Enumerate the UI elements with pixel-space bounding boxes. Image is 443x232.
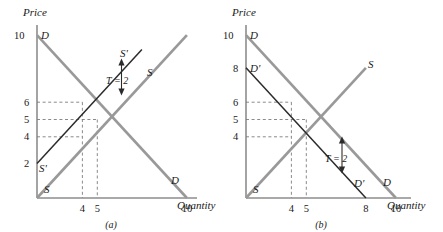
x-tick-5: 5 bbox=[304, 203, 309, 214]
tax-label: T = 2 bbox=[106, 75, 128, 86]
x-tick-10: 10 bbox=[391, 203, 402, 214]
y-tick-4: 4 bbox=[24, 131, 30, 142]
y-tick-5: 5 bbox=[233, 114, 238, 125]
x-tick-4: 4 bbox=[80, 203, 86, 214]
supply-label-right: S bbox=[368, 58, 374, 70]
x-tick-10: 10 bbox=[182, 203, 193, 214]
demand-label-bottom: D bbox=[382, 176, 391, 188]
supply-shifted-curve bbox=[37, 50, 142, 164]
panel-b-chart: Price Quantity T = 2 D D bbox=[221, 0, 443, 232]
demand-label-top: D bbox=[40, 29, 49, 41]
tax-incidence-figure: Price Quantity T = 2 D D bbox=[0, 0, 443, 232]
panel-caption-b: (b) bbox=[315, 219, 327, 231]
y-tick-5: 5 bbox=[24, 114, 29, 125]
y-tick-6: 6 bbox=[233, 97, 238, 108]
x-tick-4: 4 bbox=[289, 203, 295, 214]
y-tick-8: 8 bbox=[233, 63, 238, 74]
x-tick-5: 5 bbox=[95, 203, 100, 214]
tax-label: T = 2 bbox=[325, 153, 347, 164]
panel-b: Price Quantity T = 2 D D bbox=[221, 0, 443, 232]
supply-label-origin: S bbox=[44, 183, 50, 195]
y-axis-title: Price bbox=[231, 6, 256, 18]
y-tick-10: 10 bbox=[14, 30, 25, 41]
panel-caption-a: (a) bbox=[105, 219, 117, 231]
y-tick-6: 6 bbox=[24, 97, 29, 108]
panel-a-chart: Price Quantity T = 2 D D bbox=[0, 0, 222, 232]
y-tick-2: 2 bbox=[24, 158, 29, 169]
x-tick-8: 8 bbox=[363, 203, 368, 214]
supply-label-right: S bbox=[147, 66, 153, 78]
y-tick-4: 4 bbox=[233, 131, 239, 142]
demand-label-top: D bbox=[249, 29, 258, 41]
demand-label-bottom: D bbox=[170, 174, 179, 186]
supply-label-origin: S bbox=[253, 183, 259, 195]
demand-shifted-label-bottom: D' bbox=[353, 177, 365, 189]
supply-shifted-label-high: S' bbox=[120, 47, 129, 59]
supply-shifted-label-low: S' bbox=[39, 162, 48, 174]
y-axis-title: Price bbox=[22, 6, 47, 18]
panel-a: Price Quantity T = 2 D D bbox=[0, 0, 222, 232]
demand-shifted-label-top: D' bbox=[249, 62, 261, 74]
y-tick-10: 10 bbox=[223, 30, 234, 41]
